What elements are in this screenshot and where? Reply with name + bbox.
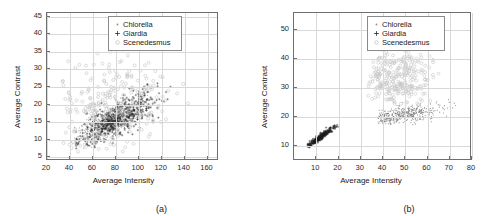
y-axis-title-b: Average Contrast (260, 66, 269, 128)
x-tick-label: 20 (333, 164, 341, 172)
plus-marker-icon (371, 30, 382, 37)
x-tick-label: 60 (422, 164, 430, 172)
circle-marker-icon (112, 39, 123, 46)
x-tick-label: 30 (356, 164, 364, 172)
x-tick-mark (404, 156, 405, 160)
x-tick-mark (161, 156, 162, 160)
scatter-figure: Chlorella Giardia Scenedesmus Average In… (0, 0, 495, 216)
panel-a: Chlorella Giardia Scenedesmus Average In… (0, 0, 247, 216)
y-tick-mark (46, 139, 50, 140)
y-tick-mark (293, 87, 297, 88)
x-tick-mark (427, 156, 428, 160)
y-tick-label: 5 (24, 153, 42, 161)
y-tick-label: 40 (271, 55, 289, 63)
y-tick-mark (293, 29, 297, 30)
dot-marker-icon (112, 21, 123, 28)
legend-label-scenedesmus: Scenedesmus (382, 39, 430, 47)
y-tick-label: 25 (24, 82, 42, 90)
gridline-vertical (339, 13, 340, 159)
circle-marker-icon (371, 39, 382, 46)
plus-marker-icon (112, 30, 123, 37)
subplot-caption-a: (a) (0, 204, 285, 214)
legend-row-giardia: Giardia (371, 29, 439, 38)
y-tick-mark (46, 16, 50, 17)
gridline-horizontal (47, 157, 217, 158)
x-tick-mark (471, 156, 472, 160)
series-chlorella (377, 99, 456, 125)
y-tick-mark (46, 121, 50, 122)
y-tick-label: 45 (24, 12, 42, 20)
y-tick-label: 50 (271, 26, 289, 34)
y-tick-mark (46, 68, 50, 69)
y-tick-mark (46, 33, 50, 34)
y-tick-mark (46, 104, 50, 105)
x-tick-mark (92, 156, 93, 160)
y-tick-label: 20 (24, 100, 42, 108)
x-tick-mark (360, 156, 361, 160)
x-tick-label: 70 (445, 164, 453, 172)
x-tick-label: 40 (378, 164, 386, 172)
y-tick-mark (46, 86, 50, 87)
gridline-horizontal (294, 59, 470, 60)
y-tick-mark (293, 116, 297, 117)
y-axis-title-a: Average Contrast (13, 66, 22, 128)
x-tick-label: 60 (88, 164, 96, 172)
legend-label-chlorella: Chlorella (123, 21, 153, 29)
legend-label-chlorella: Chlorella (382, 21, 412, 29)
gridline-horizontal (47, 140, 217, 141)
gridline-vertical (361, 13, 362, 159)
x-tick-mark (449, 156, 450, 160)
gridline-horizontal (294, 88, 470, 89)
legend-row-giardia: Giardia (112, 29, 176, 38)
x-tick-label: 20 (42, 164, 50, 172)
x-tick-label: 40 (65, 164, 73, 172)
subplot-caption-b: (b) (247, 204, 495, 214)
gridline-vertical (450, 13, 451, 159)
x-tick-label: 80 (467, 164, 475, 172)
x-tick-mark (184, 156, 185, 160)
y-tick-label: 35 (24, 47, 42, 55)
y-tick-label: 15 (24, 117, 42, 125)
legend-b: Chlorella Giardia Scenedesmus (367, 16, 445, 51)
legend-label-giardia: Giardia (382, 30, 406, 38)
y-tick-mark (46, 156, 50, 157)
legend-label-scenedesmus: Scenedesmus (123, 39, 171, 47)
x-tick-mark (115, 156, 116, 160)
x-tick-mark (207, 156, 208, 160)
x-tick-label: 120 (154, 164, 167, 172)
gridline-horizontal (294, 117, 470, 118)
y-tick-mark (46, 51, 50, 52)
y-tick-label: 40 (24, 29, 42, 37)
x-tick-mark (338, 156, 339, 160)
x-axis-title-a: Average Intensity (0, 176, 247, 185)
y-tick-label: 20 (271, 113, 289, 121)
legend-label-giardia: Giardia (123, 30, 147, 38)
legend-row-chlorella: Chlorella (112, 20, 176, 29)
x-axis-title-b: Average Intensity (247, 176, 495, 185)
gridline-vertical (316, 13, 317, 159)
gridline-horizontal (47, 69, 217, 70)
legend-row-scenedesmus: Scenedesmus (371, 38, 439, 47)
legend-a: Chlorella Giardia Scenedesmus (108, 16, 182, 51)
x-tick-mark (382, 156, 383, 160)
series-giardia (306, 124, 339, 149)
x-tick-label: 160 (200, 164, 213, 172)
x-tick-mark (315, 156, 316, 160)
gridline-horizontal (47, 105, 217, 106)
gridline-horizontal (47, 122, 217, 123)
x-tick-label: 100 (131, 164, 144, 172)
gridline-horizontal (47, 87, 217, 88)
x-tick-label: 80 (111, 164, 119, 172)
x-tick-label: 50 (400, 164, 408, 172)
gridline-horizontal (47, 52, 217, 53)
gridline-vertical (472, 13, 473, 159)
y-tick-label: 30 (24, 65, 42, 73)
x-tick-label: 140 (177, 164, 190, 172)
y-tick-label: 30 (271, 84, 289, 92)
y-tick-label: 10 (271, 142, 289, 150)
gridline-horizontal (294, 146, 470, 147)
x-tick-label: 10 (311, 164, 319, 172)
dot-marker-icon (371, 21, 382, 28)
legend-row-scenedesmus: Scenedesmus (112, 38, 176, 47)
y-tick-label: 10 (24, 135, 42, 143)
